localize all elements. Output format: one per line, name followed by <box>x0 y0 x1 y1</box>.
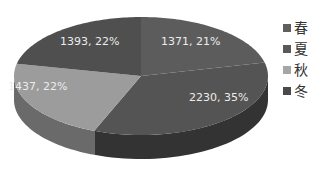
legend-item-autumn: 秋 <box>283 59 308 80</box>
legend: 春 夏 秋 冬 <box>283 17 308 101</box>
legend-item-spring: 春 <box>283 17 308 38</box>
legend-label: 夏 <box>294 42 308 56</box>
legend-swatch-icon <box>283 66 291 74</box>
legend-label: 冬 <box>294 84 308 98</box>
legend-label: 秋 <box>294 63 308 77</box>
data-label-1: 2230, 35% <box>189 91 248 104</box>
legend-swatch-icon <box>283 87 291 95</box>
legend-swatch-icon <box>283 45 291 53</box>
data-label-2: 1437, 22% <box>8 80 67 93</box>
pie-chart: 1371, 21%2230, 35%1437, 22%1393, 22% <box>0 0 321 173</box>
data-label-0: 1371, 21% <box>161 35 220 48</box>
data-label-3: 1393, 22% <box>60 35 119 48</box>
legend-swatch-icon <box>283 24 291 32</box>
legend-item-winter: 冬 <box>283 80 308 101</box>
pie-slices <box>14 17 268 135</box>
legend-label: 春 <box>294 21 308 35</box>
legend-item-summer: 夏 <box>283 38 308 59</box>
